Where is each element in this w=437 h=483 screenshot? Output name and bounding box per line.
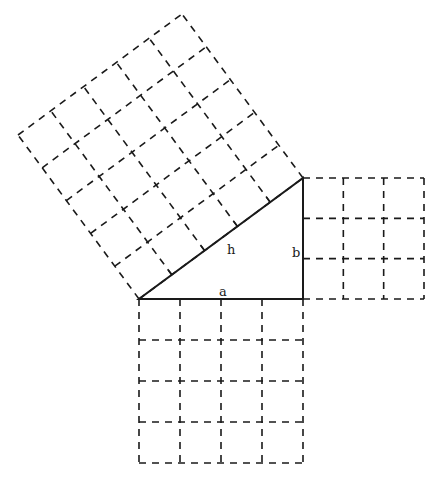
unit-ticks bbox=[168, 197, 270, 274]
square-on-h-grid bbox=[18, 14, 303, 299]
label-hypotenuse: h bbox=[227, 242, 236, 257]
pythagorean-diagram: h b a bbox=[0, 0, 437, 483]
square-on-b-grid bbox=[303, 178, 424, 299]
label-leg-a: a bbox=[219, 284, 227, 299]
label-leg-b: b bbox=[292, 245, 300, 260]
square-on-a-grid bbox=[139, 299, 303, 463]
